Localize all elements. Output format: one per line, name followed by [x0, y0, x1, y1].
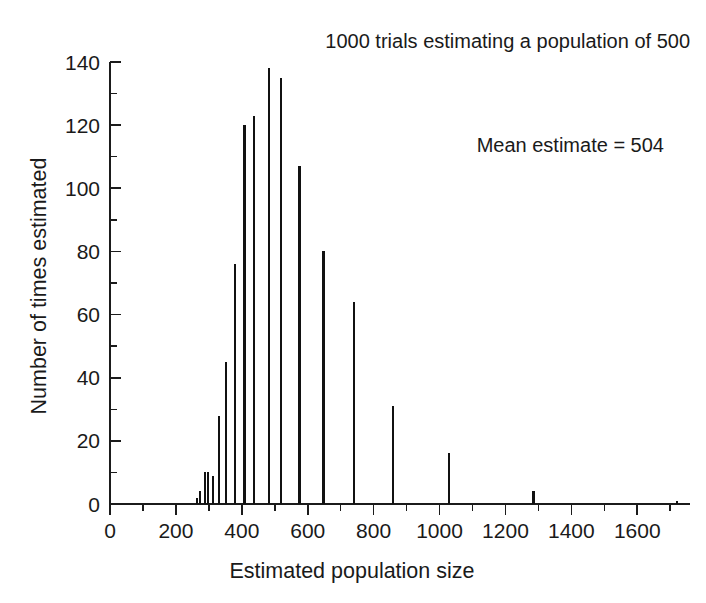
chart-title: 1000 trials estimating a population of 5…	[325, 30, 690, 52]
x-tick-label: 800	[356, 519, 391, 542]
y-tick-label: 0	[88, 493, 100, 516]
x-axis: 02004006008001000120014001600	[104, 504, 690, 542]
y-axis-title: Number of times estimated	[27, 158, 51, 415]
x-tick-label: 1400	[548, 519, 595, 542]
y-tick-label: 40	[77, 366, 100, 389]
x-tick-label: 200	[158, 519, 193, 542]
x-tick-label: 1200	[482, 519, 529, 542]
y-tick-label: 20	[77, 429, 100, 452]
y-tick-label: 100	[65, 177, 100, 200]
x-tick-label: 400	[224, 519, 259, 542]
y-tick-label: 140	[65, 51, 100, 74]
y-axis-ticks	[110, 62, 121, 504]
y-axis: 020406080100120140	[65, 51, 121, 516]
x-axis-ticks	[110, 504, 670, 515]
y-tick-label: 80	[77, 240, 100, 263]
x-tick-label: 1000	[416, 519, 463, 542]
x-axis-tick-labels: 02004006008001000120014001600	[104, 519, 660, 542]
x-axis-title: Estimated population size	[229, 559, 474, 583]
mean-estimate-annotation: Mean estimate = 504	[477, 134, 664, 156]
chart-canvas: 1000 trials estimating a population of 5…	[0, 0, 706, 603]
x-tick-label: 600	[290, 519, 325, 542]
x-tick-label: 1600	[614, 519, 661, 542]
x-tick-label: 0	[104, 519, 116, 542]
y-tick-label: 120	[65, 114, 100, 137]
histogram-figure: 1000 trials estimating a population of 5…	[0, 0, 706, 603]
y-tick-label: 60	[77, 303, 100, 326]
y-axis-tick-labels: 020406080100120140	[65, 51, 100, 516]
